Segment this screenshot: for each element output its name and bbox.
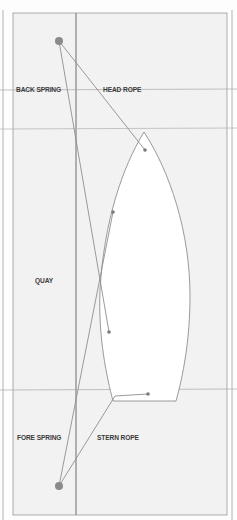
fore-spring-label: FORE SPRING <box>17 434 61 441</box>
top-bollard-icon <box>55 37 63 45</box>
bow-cleat-icon <box>143 148 147 152</box>
mooring-diagram: BACK SPRING HEAD ROPE QUAY FORE SPRING S… <box>0 0 237 520</box>
diagram-canvas: BACK SPRING HEAD ROPE QUAY FORE SPRING S… <box>0 0 237 520</box>
head-rope-label: HEAD ROPE <box>103 86 142 93</box>
fore-midship-cleat-icon <box>111 210 115 214</box>
stern-cleat-icon <box>146 392 150 396</box>
back-spring-label: BACK SPRING <box>16 86 61 93</box>
quay-label: QUAY <box>35 277 54 285</box>
stern-rope-label: STERN ROPE <box>97 434 140 441</box>
aft-midship-cleat-icon <box>107 330 111 334</box>
bottom-bollard-icon <box>55 482 63 490</box>
